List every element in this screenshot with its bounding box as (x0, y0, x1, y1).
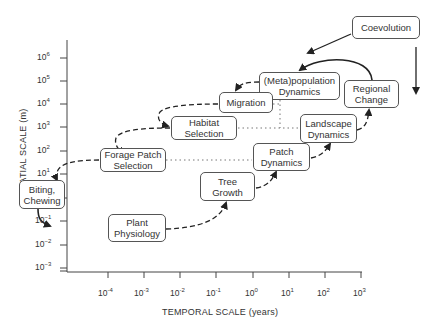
node-label: Patch (269, 146, 293, 157)
y-tick: 10−1 (35, 214, 51, 225)
node-label: (Meta)population (264, 75, 335, 86)
x-tick: 10-4 (98, 287, 113, 298)
diagram-canvas (0, 0, 436, 332)
y-axis (60, 40, 67, 272)
node-label: Forage Patch (104, 149, 161, 160)
node-habitat-selection: Habitat Selection (171, 116, 237, 140)
node-label: Physiology (114, 228, 160, 239)
node-label: Selection (113, 160, 152, 171)
node-label: Dynamics (279, 86, 321, 97)
x-tick: 100 (245, 287, 258, 298)
node-patch-dynamics: Patch Dynamics (253, 143, 310, 171)
x-tick: 103 (353, 287, 366, 298)
node-label: Habitat (189, 117, 219, 128)
node-plant-physiology: Plant Physiology (108, 214, 166, 242)
node-label: Selection (184, 128, 223, 139)
x-tick: 10-3 (134, 287, 149, 298)
y-tick: 10−2 (35, 238, 51, 249)
node-label: Migration (226, 97, 265, 108)
node-forage-patch-selection: Forage Patch Selection (100, 148, 166, 172)
node-label: Tree (218, 176, 237, 187)
x-axis (67, 272, 362, 278)
node-label: Dynamics (308, 129, 350, 140)
y-tick: 103 (37, 120, 50, 131)
node-label: Growth (212, 187, 243, 198)
x-tick: 102 (317, 287, 330, 298)
node-landscape-dynamics: Landscape Dynamics (300, 114, 357, 143)
node-label: Regional (353, 83, 391, 94)
x-tick: 10-2 (170, 287, 185, 298)
x-tick: 101 (281, 287, 294, 298)
node-label: Landscape (305, 118, 351, 129)
node-biting-chewing: Biting, Chewing (19, 180, 65, 209)
x-tick: 10-1 (206, 287, 221, 298)
node-label: Coevolution (361, 22, 411, 33)
y-tick: 102 (37, 144, 50, 155)
y-tick: 101 (37, 167, 50, 178)
node-label: Chewing (24, 195, 61, 206)
y-tick: 105 (37, 74, 50, 85)
node-label: Biting, (29, 184, 55, 195)
y-tick: 10−3 (35, 261, 51, 272)
y-tick: 104 (37, 97, 50, 108)
node-coevolution: Coevolution (352, 16, 420, 39)
y-tick: 106 (37, 51, 50, 62)
node-migration: Migration (219, 92, 273, 113)
node-label: Change (355, 94, 388, 105)
node-tree-growth: Tree Growth (200, 172, 255, 201)
x-axis-label: TEMPORAL SCALE (years) (162, 307, 278, 317)
node-label: Dynamics (261, 157, 303, 168)
node-label: Plant (126, 217, 148, 228)
node-regional-change: Regional Change (344, 80, 399, 108)
